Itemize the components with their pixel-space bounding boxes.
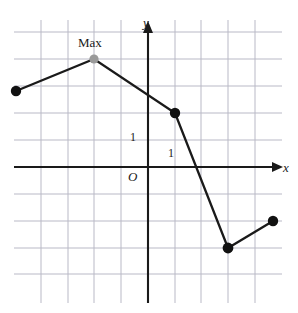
y-axis xyxy=(143,21,153,303)
point-mid xyxy=(170,108,180,118)
graph-figure: y x O 1 1 Max xyxy=(0,0,298,313)
max-annotation-label: Max xyxy=(78,36,102,49)
y-axis-label: y xyxy=(143,16,149,29)
curve-path xyxy=(16,59,273,248)
x-unit-tick-label: 1 xyxy=(168,147,174,159)
point-right-endpoint xyxy=(268,216,278,226)
y-unit-tick-label: 1 xyxy=(130,131,136,143)
point-max xyxy=(89,54,98,63)
point-minimum xyxy=(223,243,234,254)
x-axis-label: x xyxy=(283,161,289,174)
plot-canvas xyxy=(0,0,298,313)
origin-label: O xyxy=(128,170,137,183)
data-points xyxy=(11,54,278,253)
point-left-endpoint xyxy=(11,86,21,96)
